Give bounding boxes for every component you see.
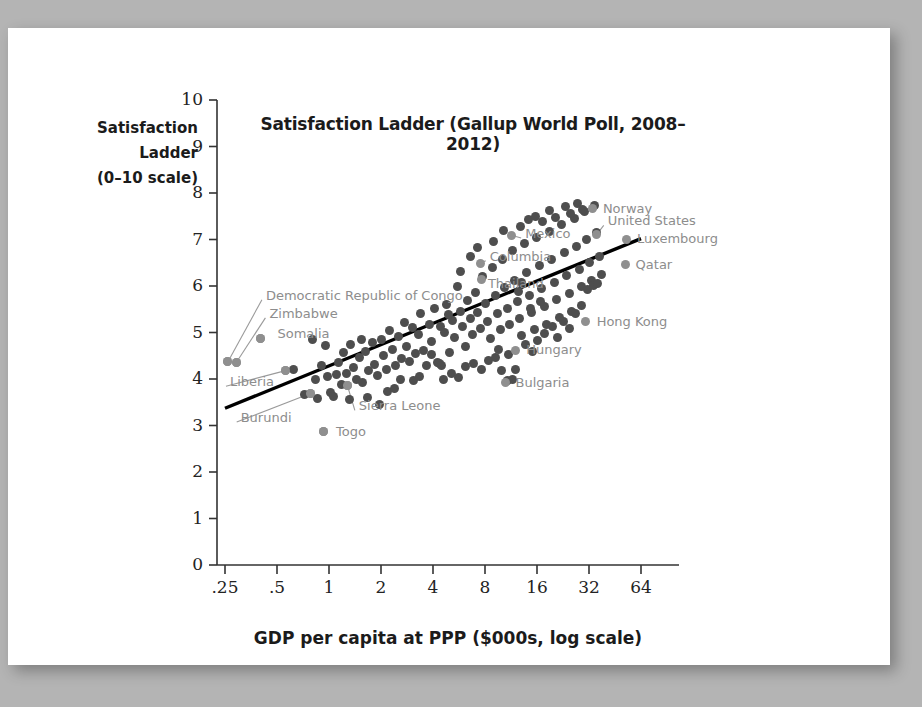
data-point xyxy=(461,342,470,351)
country-label: Togo xyxy=(336,424,366,439)
y-tick-label: 1 xyxy=(169,508,203,528)
data-point xyxy=(430,304,439,313)
data-point xyxy=(503,304,512,313)
data-point xyxy=(585,258,594,267)
y-tick-label: 4 xyxy=(169,368,203,388)
data-point xyxy=(575,265,584,274)
highlighted-data-point xyxy=(622,235,631,244)
country-label: Hong Kong xyxy=(597,314,668,329)
data-point xyxy=(486,334,495,343)
y-tick-label: 7 xyxy=(169,229,203,249)
data-point xyxy=(577,301,586,310)
data-point xyxy=(427,350,436,359)
data-point xyxy=(370,360,379,369)
y-tick-label: 8 xyxy=(169,182,203,202)
plot-area xyxy=(8,28,890,665)
data-point xyxy=(473,308,482,317)
data-point xyxy=(349,363,358,372)
data-point xyxy=(332,370,341,379)
highlighted-data-point xyxy=(232,358,241,367)
x-tick-label: .5 xyxy=(254,577,300,597)
data-point xyxy=(388,345,397,354)
y-tick-label: 10 xyxy=(169,89,203,109)
data-point xyxy=(553,333,562,342)
data-point xyxy=(414,330,423,339)
data-point xyxy=(339,348,348,357)
data-point xyxy=(425,320,434,329)
data-point xyxy=(361,347,370,356)
data-point xyxy=(415,372,424,381)
country-label: Somalia xyxy=(277,326,329,341)
x-tick-label: 2 xyxy=(358,577,404,597)
data-point xyxy=(593,279,602,288)
country-label: Qatar xyxy=(636,257,673,272)
x-tick-label: 64 xyxy=(618,577,664,597)
data-point xyxy=(551,213,560,222)
data-point xyxy=(477,365,486,374)
data-point xyxy=(445,348,454,357)
country-label: United States xyxy=(608,213,696,228)
data-point xyxy=(566,209,575,218)
data-point xyxy=(321,341,330,350)
data-point xyxy=(565,289,574,298)
highlighted-data-point xyxy=(507,231,516,240)
data-point xyxy=(491,291,500,300)
highlighted-data-point xyxy=(511,346,520,355)
data-point xyxy=(525,291,534,300)
data-point xyxy=(368,338,377,347)
y-tick-label: 5 xyxy=(169,322,203,342)
country-label: Mexico xyxy=(525,226,570,241)
data-point xyxy=(516,222,525,231)
data-point xyxy=(496,325,505,334)
country-label: Zimbabwe xyxy=(269,306,337,321)
country-label: Democratic Republic of Congo xyxy=(266,288,463,303)
y-tick-label: 3 xyxy=(169,415,203,435)
data-point xyxy=(560,248,569,257)
data-point xyxy=(494,345,503,354)
highlighted-data-point xyxy=(319,427,328,436)
y-tick-label: 0 xyxy=(169,554,203,574)
data-point xyxy=(390,384,399,393)
x-tick-label: 16 xyxy=(514,577,560,597)
x-tick-label: 1 xyxy=(306,577,352,597)
scatter-figure: Satisfaction Ladder (0–10 scale) Satisfa… xyxy=(8,28,890,665)
y-tick-label: 6 xyxy=(169,275,203,295)
data-point xyxy=(530,325,539,334)
highlighted-data-point xyxy=(621,260,630,269)
data-point xyxy=(488,263,497,272)
country-label: Burundi xyxy=(241,410,292,425)
x-tick-label: 4 xyxy=(410,577,456,597)
country-label: Columbia xyxy=(490,249,551,264)
data-point xyxy=(329,392,338,401)
data-point xyxy=(456,267,465,276)
data-point xyxy=(466,252,475,261)
data-point xyxy=(377,335,386,344)
country-label: Luxembourg xyxy=(637,231,718,246)
x-tick-label: 32 xyxy=(566,577,612,597)
data-point xyxy=(444,310,453,319)
y-tick-label: 9 xyxy=(169,136,203,156)
data-point xyxy=(595,252,604,261)
country-label: Bulgaria xyxy=(516,375,570,390)
data-point xyxy=(454,373,463,382)
data-point xyxy=(481,299,490,308)
data-point xyxy=(572,242,581,251)
highlighted-data-point xyxy=(306,389,315,398)
country-label: Thailand xyxy=(488,276,544,291)
x-axis-title: GDP per capita at PPP ($000s, log scale) xyxy=(158,628,738,648)
data-point xyxy=(550,278,559,287)
y-tick-label: 2 xyxy=(169,461,203,481)
data-point xyxy=(456,307,465,316)
x-tick-label: 8 xyxy=(462,577,508,597)
country-label: Hungary xyxy=(526,342,582,357)
data-point xyxy=(397,354,406,363)
highlighted-data-point xyxy=(476,259,485,268)
page-sheet: Satisfaction Ladder (0–10 scale) Satisfa… xyxy=(8,28,890,665)
data-point xyxy=(437,361,446,370)
country-label: Liberia xyxy=(230,374,274,389)
country-label: Sierra Leone xyxy=(359,398,441,413)
data-point xyxy=(473,243,482,252)
data-point xyxy=(505,320,514,329)
highlighted-data-point xyxy=(256,334,265,343)
x-tick-label: .25 xyxy=(202,577,248,597)
